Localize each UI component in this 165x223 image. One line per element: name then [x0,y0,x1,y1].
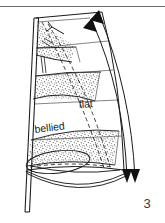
label-flat: flat [78,97,93,110]
figure-number: 3 [143,196,150,211]
sail-diagram-canvas: flat bellied 3 [0,0,165,223]
arrow-down-outer [130,169,140,183]
arrow-down-inner [122,169,132,183]
sail-diagram-figure: flat bellied 3 [0,0,165,223]
